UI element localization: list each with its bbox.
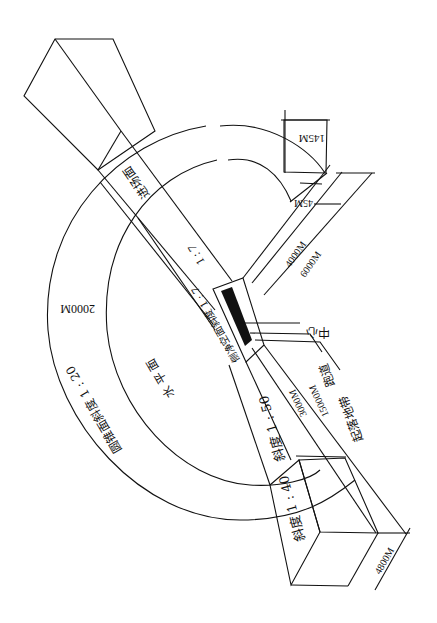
approach-edge xyxy=(55,39,121,131)
label-slope-1-50: 斜度 1 : 50 xyxy=(256,394,288,463)
dim-2000m: 2000M xyxy=(60,302,95,316)
conical-right-arc xyxy=(220,125,325,173)
label-center: 中心 xyxy=(306,325,330,340)
label-inner-horizontal: 水 平 面 xyxy=(144,356,178,401)
inner-right-arc xyxy=(228,159,291,201)
label-approach-top: 进场面 xyxy=(120,164,152,202)
label-slope-1-40: 斜度 1 : 40 xyxy=(276,474,308,543)
dim-145m: 145M xyxy=(299,133,326,145)
dim-45-line xyxy=(300,183,322,184)
approach-strip-edge-1 xyxy=(121,131,232,281)
diagram-svg: 进场面 1 : 7 侧净空面斜度 1 : 7 水 平 面 圆锥面斜度 1 : 2… xyxy=(0,0,437,623)
approach-inner-edge xyxy=(98,131,121,170)
airport-obstacle-limitation-diagram: 进场面 1 : 7 侧净空面斜度 1 : 7 水 平 面 圆锥面斜度 1 : 2… xyxy=(0,0,437,623)
dim-4800m: 4800M xyxy=(372,545,396,576)
outer-edge-bottom xyxy=(291,585,348,586)
dim-tick-3000 xyxy=(296,456,346,457)
label-strip: 起落地带 xyxy=(336,394,366,444)
dim-line-6000 xyxy=(252,172,342,283)
dim-line-outer xyxy=(264,173,372,295)
approach-lower-box xyxy=(299,458,378,533)
label-runway: 跑道 xyxy=(316,361,337,388)
dim-45m: 45M xyxy=(294,198,313,209)
outer-edge-right xyxy=(348,533,378,586)
label-slope-1-7-top: 1 : 7 xyxy=(185,242,208,267)
dim-3000m: 3000M xyxy=(287,388,309,419)
box-145 xyxy=(284,120,327,173)
label-conical: 圆锥面斜度 1 : 20 xyxy=(62,363,124,456)
conical-outer-boundary xyxy=(47,126,355,520)
